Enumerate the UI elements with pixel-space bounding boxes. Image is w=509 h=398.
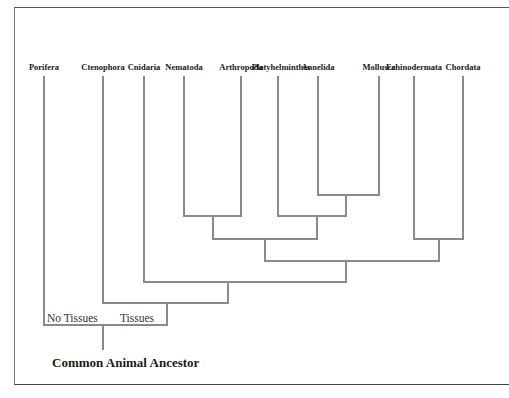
- clade-echino-chordata: [414, 76, 463, 239]
- root-label: Common Animal Ancestor: [52, 355, 199, 371]
- branch-label-no-tissues: No Tissues: [47, 312, 98, 324]
- taxon-porifera: Porifera: [29, 62, 59, 72]
- taxon-echinodermata: Echinodermata: [386, 62, 442, 72]
- taxon-cnidaria: Cnidaria: [128, 62, 161, 72]
- branch-label-tissues: Tissues: [120, 312, 154, 324]
- clade-annelida-mollusca: [318, 76, 379, 195]
- clade-root: [44, 76, 167, 325]
- clade-protostomes: [213, 216, 317, 239]
- taxon-annelida: Annelida: [301, 62, 334, 72]
- taxon-nematoda: Nematoda: [165, 62, 202, 72]
- clade-bilateria: [265, 239, 439, 261]
- clade-tissues: [103, 76, 228, 303]
- clade-nematoda-arthropoda: [184, 76, 241, 216]
- taxon-chordata: Chordata: [446, 62, 481, 72]
- taxon-ctenophora: Ctenophora: [81, 62, 124, 72]
- clade-cnidaria-bilateria: [144, 76, 346, 282]
